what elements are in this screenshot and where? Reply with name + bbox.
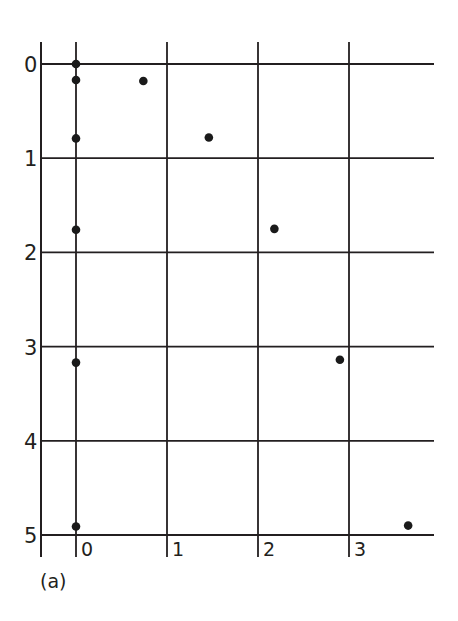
data-point: [336, 355, 345, 364]
data-point: [72, 522, 81, 531]
x-tick-labels: 0123: [81, 538, 366, 560]
data-point: [404, 521, 413, 530]
data-point: [72, 134, 81, 143]
data-point: [72, 76, 81, 85]
data-point: [139, 77, 148, 86]
data-points: [72, 60, 413, 531]
x-tick-label: 3: [354, 538, 366, 560]
grid-lines: [41, 42, 434, 557]
y-tick-label: 1: [24, 147, 37, 171]
y-tick-label: 3: [24, 336, 37, 360]
data-point: [72, 60, 81, 69]
y-tick-label: 4: [24, 430, 37, 454]
x-tick-label: 1: [172, 538, 184, 560]
data-point: [270, 225, 279, 234]
x-tick-label: 2: [263, 538, 275, 560]
y-tick-labels: 012345: [24, 53, 37, 548]
data-point: [72, 225, 81, 234]
y-tick-label: 2: [24, 241, 37, 265]
data-point: [205, 133, 214, 142]
y-tick-label: 5: [24, 524, 37, 548]
data-point: [72, 358, 81, 367]
x-tick-label: 0: [81, 538, 93, 560]
scatter-chart: 012345 0123 (a): [0, 0, 458, 621]
panel-label: (a): [40, 570, 66, 592]
y-tick-label: 0: [24, 53, 37, 77]
